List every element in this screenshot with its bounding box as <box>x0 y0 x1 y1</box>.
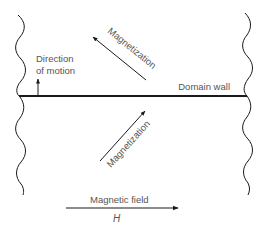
domain-wall-diagram: Direction of motion Magnetization Domain… <box>0 0 266 235</box>
direction-of-motion-label-line1: Direction <box>36 53 74 64</box>
upper-magnetization-label: Magnetization <box>106 25 159 71</box>
left-boundary-wavy-line <box>16 15 26 195</box>
field-symbol-label: H <box>113 213 121 224</box>
magnetic-field-label: Magnetic field <box>90 194 149 205</box>
direction-of-motion-label-line2: of motion <box>36 65 75 76</box>
right-boundary-wavy-line <box>243 13 253 195</box>
domain-wall-label: Domain wall <box>178 81 230 92</box>
lower-magnetization-label: Magnetization <box>104 118 152 169</box>
